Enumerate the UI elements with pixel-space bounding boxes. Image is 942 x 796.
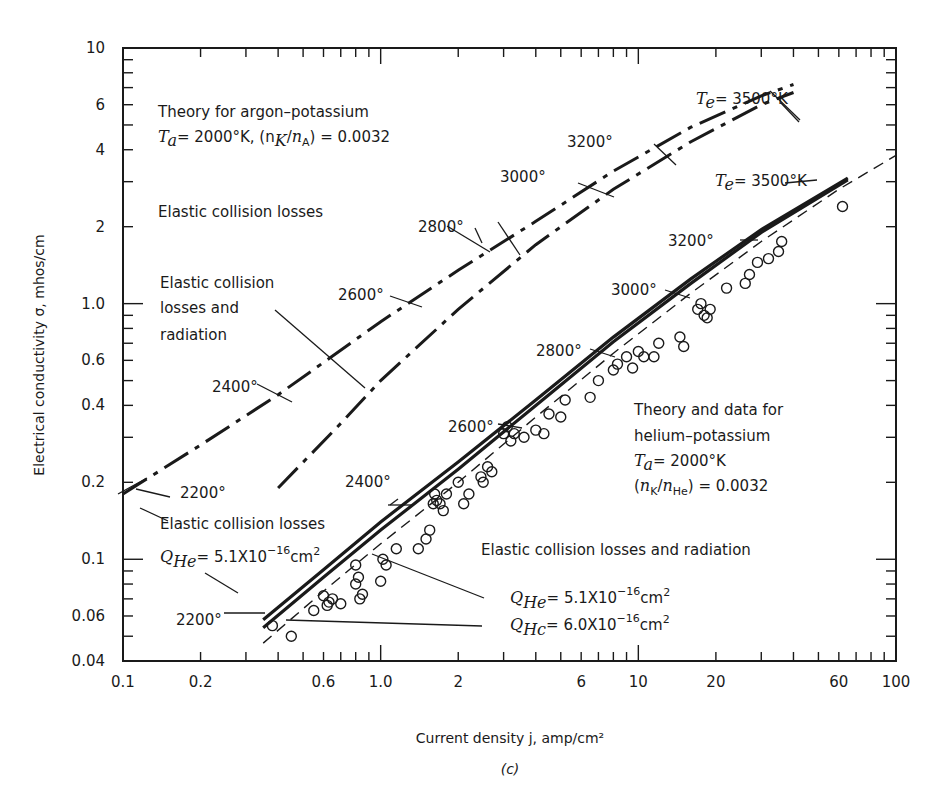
argon-elastic-rad-label-2: losses and [160,299,239,317]
he-q51-left-label: QHe= 5.1X10−16cm2 [160,544,320,571]
he-ratio-label: (nK/nHe) = 0.0032 [634,476,768,498]
data-point [519,432,529,442]
data-point [309,606,319,616]
data-point [628,363,638,373]
he-q51-right-label: QHe= 5.1X10−16cm2 [510,585,670,612]
x-tick-label: 100 [882,673,911,691]
y-tick-label: 0.04 [72,652,105,670]
argon-2600-label: 2600° [338,286,384,304]
argon-params: Ta= 2000°K, (nK/nA) = 0.0032 [158,127,390,150]
data-point [705,304,715,314]
he-2800-label: 2800° [536,342,582,360]
data-point [353,572,363,582]
x-tick-label: 0.2 [189,673,213,691]
data-point [777,237,787,247]
data-point [556,412,566,422]
data-point [441,489,451,499]
x-axis-title: Current density j, amp/cm² [416,730,604,746]
y-tick-label: 1.0 [81,295,105,313]
x-tick-label: 6 [576,673,586,691]
data-point [560,395,570,405]
data-point [593,376,603,386]
he-3000-label: 3000° [611,281,657,299]
data-point [376,576,386,586]
argon-3000-label: 3000° [500,168,546,186]
argon-te-label: Te= 3500°K [696,89,789,112]
data-point [459,499,469,509]
data-point [351,579,361,589]
figure-caption: (c) [501,761,520,777]
argon-3200-label: 3200° [567,133,613,151]
x-tick-label: 10 [629,673,648,691]
argon-elastic-rad-label-3: radiation [160,326,227,344]
data-point [654,338,664,348]
y-tick-label: 0.1 [81,550,105,568]
x-tick-label: 1.0 [369,673,393,691]
he-te-label: Te= 3500°K [715,171,808,194]
data-point [286,631,296,641]
x-tick-label: 60 [829,673,848,691]
argon-2800-label: 2800° [418,218,464,236]
data-point [699,310,709,320]
data-point [679,341,689,351]
data-point [413,544,423,554]
data-point [675,332,685,342]
data-point [391,544,401,554]
data-point [752,257,762,267]
data-point [744,270,754,280]
data-point [351,560,361,570]
argon-elastic-label: Elastic collision losses [158,203,323,221]
data-point [649,352,659,362]
data-point [544,409,554,419]
y-tick-label: 0.06 [72,607,105,625]
data-point [693,304,703,314]
y-axis-title: Electrical conductivity σ, mhos/cm [31,234,47,475]
argon-2200-label: 2200° [180,484,226,502]
argon-2400-label: 2400° [212,378,258,396]
data-point [622,352,632,362]
he-elastic-label: Elastic collision losses [160,515,325,533]
data-point [336,599,346,609]
data-markers [267,201,847,641]
data-point [696,299,706,309]
data-point [838,201,848,211]
data-point [430,489,440,499]
he-3200-label: 3200° [668,232,714,250]
chart: 0.10.20.61.026102060100106421.00.60.40.2… [0,0,942,796]
argon-elastic-rad-label-1: Elastic collision [160,274,274,292]
he-2200-label: 2200° [176,611,222,629]
x-tick-label: 0.6 [312,673,336,691]
he-title-1: Theory and data for [633,401,784,419]
data-point [774,246,784,256]
y-tick-label: 0.2 [81,473,105,491]
x-tick-label: 20 [706,673,725,691]
data-point [267,621,277,631]
data-point [763,254,773,264]
x-tick-label: 2 [453,673,463,691]
y-tick-label: 0.4 [81,396,105,414]
data-point [464,489,474,499]
x-tick-label: 0.1 [111,673,135,691]
data-point [539,429,549,439]
y-tick-label: 6 [95,96,105,114]
he-ta-label: Ta= 2000°K [634,451,727,474]
he-elastic-rad-label: Elastic collision losses and radiation [481,541,751,559]
y-tick-label: 2 [95,218,105,236]
y-tick-label: 0.6 [81,351,105,369]
data-point [722,283,732,293]
y-tick-label: 4 [95,141,105,159]
he-2600-label: 2600° [448,418,494,436]
data-point [585,392,595,402]
he-2400-label: 2400° [345,473,391,491]
argon-title: Theory for argon–potassium [157,103,369,121]
he-title-2: helium–potassium [634,427,770,445]
he-q60-right-label: QHc= 6.0X10−16cm2 [510,612,670,639]
data-point [425,525,435,535]
y-tick-label: 10 [86,39,105,57]
